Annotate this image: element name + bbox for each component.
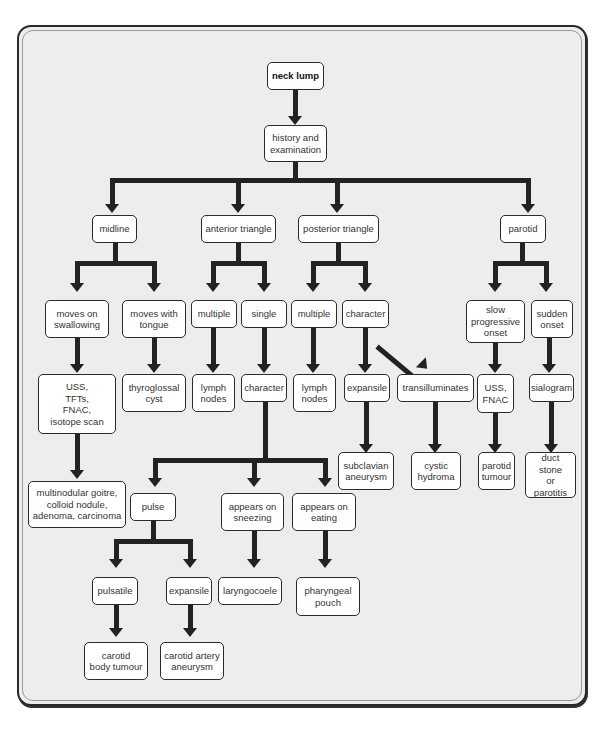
- connector: [252, 458, 257, 480]
- arrow-down-icon: [109, 559, 123, 568]
- node-anterior-triangle[interactable]: anterior triangle: [201, 215, 276, 243]
- arrow-down-icon: [70, 470, 84, 479]
- node-posterior-character[interactable]: character: [342, 300, 389, 328]
- node-history-examination[interactable]: history and examination: [264, 125, 327, 162]
- arrow-down-icon: [306, 283, 320, 292]
- node-anterior-character[interactable]: character: [241, 374, 287, 402]
- arrow-down-icon: [105, 204, 119, 213]
- connector: [293, 90, 298, 118]
- connector: [323, 458, 328, 480]
- node-midline[interactable]: midline: [92, 215, 137, 243]
- node-pulsatile[interactable]: pulsatile: [92, 577, 138, 605]
- connector: [75, 433, 80, 473]
- connector: [311, 261, 368, 266]
- connector: [188, 539, 193, 561]
- arrow-down-icon: [330, 204, 344, 213]
- node-transilluminates[interactable]: transilluminates: [397, 374, 474, 402]
- arrow-down-icon: [521, 204, 535, 213]
- node-moves-with-tongue[interactable]: moves with tongue: [122, 300, 186, 338]
- node-posterior-multiple[interactable]: multiple: [291, 300, 337, 328]
- arrow-down-icon: [288, 116, 302, 125]
- connector: [152, 337, 157, 367]
- connector: [526, 178, 531, 206]
- connector: [211, 261, 216, 285]
- node-uss-tfts-fnac-isotope[interactable]: USS, TFTs, FNAC, isotope scan: [38, 374, 116, 434]
- arrow-down-icon: [358, 283, 372, 292]
- arrow-down-icon: [206, 364, 220, 373]
- connector: [188, 604, 193, 630]
- node-sialogram[interactable]: sialogram: [529, 374, 574, 402]
- arrow-down-icon: [542, 364, 556, 373]
- node-anterior-multiple[interactable]: multiple: [191, 300, 237, 328]
- arrow-down-icon: [109, 628, 123, 637]
- node-cystic-hydroma[interactable]: cystic hydroma: [411, 452, 461, 490]
- connector: [544, 261, 549, 285]
- node-posterior-lymph-nodes[interactable]: lymph nodes: [293, 374, 336, 412]
- connector: [110, 178, 531, 183]
- connector: [263, 400, 268, 462]
- arrow-down-icon: [231, 204, 245, 213]
- node-expansile-posterior[interactable]: expansile: [344, 374, 390, 402]
- arrow-down-icon: [358, 364, 372, 373]
- arrow-down-icon: [70, 283, 84, 292]
- arrow-down-icon: [257, 283, 271, 292]
- node-carotid-artery-aneurysm[interactable]: carotid artery aneurysm: [160, 642, 224, 680]
- arrow-down-icon: [70, 364, 84, 373]
- arrow-down-icon: [488, 364, 502, 373]
- arrow-down-icon: [247, 559, 261, 568]
- node-slow-progressive-onset[interactable]: slow progressive onset: [466, 300, 525, 343]
- arrow-down-icon: [488, 283, 502, 292]
- node-duct-stone-parotitis[interactable]: duct stone or parotitis: [525, 452, 576, 498]
- node-neck-lump[interactable]: neck lump: [267, 62, 324, 90]
- connector: [153, 458, 328, 463]
- connector: [262, 327, 267, 367]
- arrow-down-icon: [318, 478, 332, 487]
- node-appears-on-sneezing[interactable]: appears on sneezing: [221, 493, 284, 531]
- connector: [364, 401, 369, 447]
- node-sudden-onset[interactable]: sudden onset: [531, 300, 573, 338]
- node-carotid-body-tumour[interactable]: carotid body tumour: [84, 642, 148, 680]
- node-laryngocoele[interactable]: laryngocoele: [218, 577, 282, 605]
- node-anterior-lymph-nodes[interactable]: lymph nodes: [192, 374, 235, 412]
- connector: [114, 539, 119, 561]
- connector: [211, 327, 216, 367]
- connector: [75, 261, 157, 266]
- node-expansile-anterior[interactable]: expansile: [166, 577, 212, 605]
- node-appears-on-eating[interactable]: appears on eating: [292, 493, 356, 531]
- connector: [75, 261, 80, 285]
- node-moves-on-swallowing[interactable]: moves on swallowing: [45, 300, 109, 338]
- node-posterior-triangle[interactable]: posterior triangle: [298, 215, 379, 243]
- node-pulse[interactable]: pulse: [130, 493, 176, 521]
- node-parotid-tumour[interactable]: parotid tumour: [478, 452, 515, 490]
- connector: [493, 412, 498, 447]
- connector: [114, 604, 119, 630]
- node-parotid[interactable]: parotid: [500, 215, 546, 243]
- connector: [363, 327, 368, 367]
- connector: [110, 178, 115, 206]
- connector: [549, 401, 554, 447]
- connector: [153, 458, 158, 480]
- arrow-down-icon: [257, 364, 271, 373]
- connector: [493, 261, 498, 285]
- connector: [363, 261, 368, 285]
- arrow-down-icon: [183, 628, 197, 637]
- node-thyroglossal-cyst[interactable]: thyroglossal cyst: [122, 374, 186, 412]
- connector: [114, 539, 193, 544]
- connector: [236, 178, 241, 206]
- node-multinodular-goitre[interactable]: multinodular goitre, colloid nodule, ade…: [28, 481, 126, 528]
- arrow-down-icon: [147, 364, 161, 373]
- node-anterior-single[interactable]: single: [241, 300, 287, 328]
- arrow-down-icon: [306, 364, 320, 373]
- arrow-down-icon: [206, 283, 220, 292]
- arrow-down-icon: [148, 478, 162, 487]
- node-subclavian-aneurysm[interactable]: subclavian aneurysm: [338, 452, 394, 490]
- node-uss-fnac[interactable]: USS, FNAC: [477, 374, 514, 413]
- connector: [311, 327, 316, 367]
- connector: [75, 337, 80, 367]
- connector: [262, 261, 267, 285]
- connector: [323, 531, 328, 561]
- node-pharyngeal-pouch[interactable]: pharyngeal pouch: [296, 577, 360, 616]
- connector: [433, 401, 438, 447]
- connector: [311, 261, 316, 285]
- connector: [493, 261, 549, 266]
